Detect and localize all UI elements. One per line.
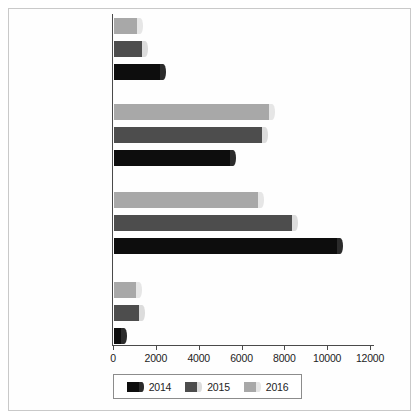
bar-body (114, 282, 137, 298)
legend-label: 2014 (149, 381, 172, 393)
legend-item-2014[interactable]: 2014 (127, 381, 172, 393)
legend-swatch-cap (197, 382, 202, 392)
bar-end-cap (230, 150, 236, 166)
x-axis-tick-label: 10000 (313, 352, 341, 364)
bar-end-cap (292, 215, 298, 231)
x-axis-tick (156, 345, 157, 350)
bar-body (114, 104, 270, 120)
x-axis-tick-label: 6000 (230, 352, 253, 364)
bar-2015-1 (114, 41, 148, 57)
legend-item-2015[interactable]: 2015 (185, 381, 230, 393)
x-axis-tick (199, 345, 200, 350)
bar-end-cap (139, 305, 145, 321)
bar-2016-1 (114, 18, 143, 34)
bar-end-cap (160, 64, 166, 80)
bar-body (114, 305, 140, 321)
bar-end-cap (269, 104, 275, 120)
bar-body (114, 18, 138, 34)
bar-body (114, 41, 143, 57)
chart-legend: 201420152016 (113, 374, 302, 399)
bar-end-cap (337, 238, 343, 254)
legend-label: 2015 (207, 381, 230, 393)
bar-2016-3 (114, 192, 264, 208)
legend-swatch-icon (127, 382, 144, 392)
bar-end-cap (142, 41, 148, 57)
bar-2016-2 (114, 104, 275, 120)
plot-area: Research Questions, In personFAQ ViewsTo… (113, 14, 370, 345)
bar-2014-4 (114, 328, 127, 344)
x-axis-tick (242, 345, 243, 350)
x-axis-tick (370, 345, 371, 350)
legend-swatch-cap (256, 382, 261, 392)
legend-swatch-icon (244, 382, 261, 392)
x-axis-tick (284, 345, 285, 350)
x-axis-tick-label: 2000 (145, 352, 168, 364)
x-axis-tick-label: 12000 (356, 352, 384, 364)
bar-body (114, 150, 231, 166)
legend-label: 2016 (266, 381, 289, 393)
bar-2015-3 (114, 215, 298, 231)
legend-swatch-icon (185, 382, 202, 392)
legend-swatch-body (127, 382, 140, 392)
x-axis-tick (327, 345, 328, 350)
legend-swatch-cap (139, 382, 144, 392)
x-axis-tick (113, 345, 114, 350)
legend-item-2016[interactable]: 2016 (244, 381, 289, 393)
bar-2014-1 (114, 64, 166, 80)
bar-end-cap (121, 328, 127, 344)
bar-body (114, 238, 338, 254)
bar-end-cap (137, 18, 143, 34)
bar-end-cap (258, 192, 264, 208)
bar-2014-2 (114, 150, 236, 166)
bar-body (114, 64, 161, 80)
x-axis-line (112, 345, 374, 346)
bar-end-cap (136, 282, 142, 298)
x-axis-tick-label: 0 (110, 352, 116, 364)
bar-2015-2 (114, 127, 268, 143)
legend-swatch-body (244, 382, 257, 392)
x-axis-tick-label: 8000 (273, 352, 296, 364)
bar-2015-4 (114, 305, 145, 321)
bar-body (114, 192, 259, 208)
x-axis-tick-label: 4000 (187, 352, 210, 364)
bar-end-cap (262, 127, 268, 143)
chart-page: 020004000600080001000012000 Research Que… (0, 0, 419, 419)
bar-body (114, 215, 293, 231)
bar-2014-3 (114, 238, 343, 254)
bar-2016-4 (114, 282, 142, 298)
bar-body (114, 127, 263, 143)
